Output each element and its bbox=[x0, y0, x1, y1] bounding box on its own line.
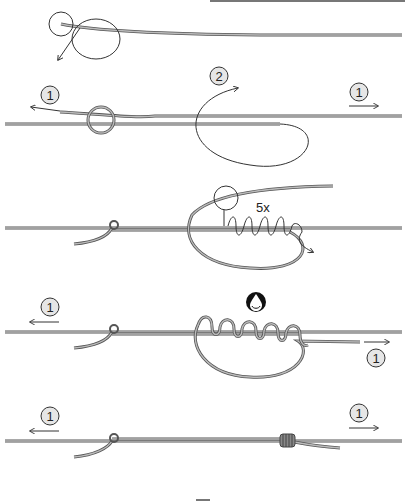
water-drop-icon bbox=[246, 292, 266, 312]
svg-text:1: 1 bbox=[46, 88, 53, 103]
svg-text:1: 1 bbox=[355, 85, 362, 100]
step-4: 1 1 bbox=[5, 292, 402, 377]
badge-1-bottom-right: 1 bbox=[367, 349, 385, 367]
step-5: 1 1 bbox=[5, 404, 402, 457]
knot-diagram: 1 2 1 5x bbox=[0, 0, 405, 501]
step-2: 1 2 1 bbox=[5, 67, 402, 166]
badge-1-right: 1 bbox=[350, 404, 368, 422]
badge-1-left: 1 bbox=[41, 298, 59, 316]
svg-text:1: 1 bbox=[355, 406, 362, 421]
badge-2-center: 2 bbox=[210, 67, 228, 85]
svg-text:1: 1 bbox=[46, 409, 53, 424]
step-3: 5x bbox=[5, 186, 402, 268]
wrap-count-label: 5x bbox=[256, 200, 270, 215]
badge-1-right: 1 bbox=[350, 83, 368, 101]
top-divider bbox=[210, 0, 405, 2]
svg-text:1: 1 bbox=[46, 300, 53, 315]
finished-wraps bbox=[280, 434, 295, 447]
step-1 bbox=[49, 12, 402, 60]
badge-1-left: 1 bbox=[41, 86, 59, 104]
svg-text:1: 1 bbox=[372, 351, 379, 366]
svg-text:2: 2 bbox=[215, 69, 222, 84]
badge-1-left: 1 bbox=[41, 407, 59, 425]
